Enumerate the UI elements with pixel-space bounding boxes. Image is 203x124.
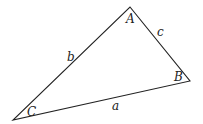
triangle-diagram: A B C a b c <box>0 0 203 124</box>
side-label-b: b <box>67 50 75 64</box>
vertex-label-a: A <box>125 12 135 26</box>
side-label-a: a <box>112 99 119 113</box>
vertex-label-c: C <box>27 105 36 119</box>
triangle-abc <box>13 7 190 120</box>
side-label-c: c <box>157 25 164 39</box>
vertex-label-b: B <box>173 70 183 84</box>
